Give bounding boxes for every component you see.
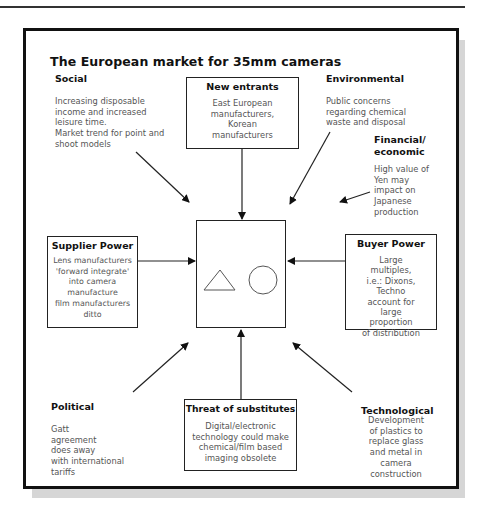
text-line: tariffs [51,467,161,478]
text-line: Market trend for point and [55,128,180,139]
text-line: High value of [374,164,454,175]
environmental-text: Public concerns regarding chemical waste… [326,96,436,128]
diagram-title: The European market for 35mm cameras [50,54,341,69]
text-line: into camera [48,277,137,288]
text-line: Gatt [51,424,161,435]
text-line: Development [356,415,436,426]
financial-heading: Financial/ economic [374,134,426,157]
new-entrants-text: East European manufacturers, Korean manu… [187,98,298,141]
text-line: of plastics to [356,426,436,437]
market-center-box [196,220,286,328]
text-line: construction [356,469,436,480]
text-line: and metal in [356,447,436,458]
text-line: multiples, [346,265,436,275]
text-line: Yen may [374,175,454,186]
text-line: technology could make [185,432,296,443]
text-line: chemical/film based [185,442,296,453]
supplier-power-text: Lens manufacturers 'forward integrate' i… [48,256,137,320]
political-text: Gatt agreement does away with internatio… [51,424,161,478]
text-line: proportion [346,317,436,327]
substitutes-heading: Threat of substitutes [185,403,296,414]
text-line: impact on [374,185,454,196]
text-line: Digital/electronic [185,421,296,432]
social-heading: Social [55,73,87,84]
text-line: large [346,307,436,317]
social-text: Increasing disposable income and increas… [55,96,180,150]
supplier-power-box: Supplier Power Lens manufacturers 'forwa… [47,236,138,328]
circle-icon [249,266,277,294]
supplier-power-heading: Supplier Power [48,240,137,251]
text-line: manufacture [48,288,137,299]
triangle-icon [204,270,235,290]
top-rule [0,6,465,8]
political-heading: Political [51,401,94,412]
buyer-power-box: Buyer Power Large multiples, i.e.: Dixon… [345,234,437,330]
substitutes-text: Digital/electronic technology could make… [185,421,296,464]
new-entrants-box: New entrants East European manufacturers… [186,77,299,149]
text-line: Lens manufacturers [48,256,137,267]
text-line: replace glass [356,436,436,447]
text-line: film manufacturers [48,299,137,310]
text-line: waste and disposal [326,117,436,128]
text-line: regarding chemical [326,107,436,118]
text-line: manufacturers [187,130,298,141]
text-line: i.e.: Dixons, [346,276,436,286]
text-line: imaging obsolete [185,453,296,464]
text-line: agreement [51,435,161,446]
text-line: income and increased [55,107,180,118]
text-line: Financial/ [374,134,426,146]
buyer-power-text: Large multiples, i.e.: Dixons, Techno ac… [346,255,436,338]
text-line: ditto [48,310,137,321]
center-shapes [197,221,284,326]
text-line: Large [346,255,436,265]
text-line: East European [187,98,298,109]
buyer-power-heading: Buyer Power [346,238,436,249]
text-line: shoot models [55,139,180,150]
text-line: Japanese [374,196,454,207]
text-line: does away [51,445,161,456]
text-line: of distribution [346,328,436,338]
text-line: Public concerns [326,96,436,107]
text-line: leisure time. [55,117,180,128]
text-line: economic [374,146,426,158]
text-line: with international [51,456,161,467]
text-line: Techno [346,286,436,296]
new-entrants-heading: New entrants [187,81,298,92]
environmental-heading: Environmental [326,73,404,84]
technological-text: Development of plastics to replace glass… [356,415,436,479]
text-line: camera [356,458,436,469]
text-line: manufacturers, [187,109,298,120]
substitutes-box: Threat of substitutes Digital/electronic… [184,399,297,471]
text-line: account for [346,297,436,307]
text-line: 'forward integrate' [48,267,137,278]
text-line: Increasing disposable [55,96,180,107]
financial-text: High value of Yen may impact on Japanese… [374,164,454,218]
text-line: Korean [187,119,298,130]
text-line: production [374,207,454,218]
